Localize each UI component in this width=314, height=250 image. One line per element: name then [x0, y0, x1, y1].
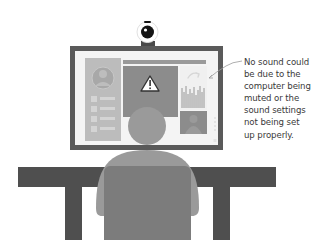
- annotation-caption: No sound could be due to the computer be…: [244, 56, 314, 141]
- top-bar: [123, 60, 206, 64]
- caption-line: sound settings: [244, 104, 314, 116]
- avatar-head: [99, 70, 107, 78]
- caption-line: No sound could: [244, 56, 314, 68]
- desk-leg-right: [213, 185, 230, 240]
- tile-person-head: [190, 115, 198, 123]
- person-head: [128, 107, 166, 145]
- webcam-icon: [137, 21, 158, 46]
- power-button: [214, 139, 217, 142]
- caption-line: computer being: [244, 80, 314, 92]
- chair-bottom: [104, 232, 191, 240]
- caption-line: be due to the: [244, 68, 314, 80]
- caption-line: muted or the: [244, 92, 314, 104]
- caption-line: not being set: [244, 116, 314, 128]
- caption-line: up properly.: [244, 129, 314, 141]
- desk-leg-left: [65, 185, 82, 240]
- chair: [104, 166, 191, 240]
